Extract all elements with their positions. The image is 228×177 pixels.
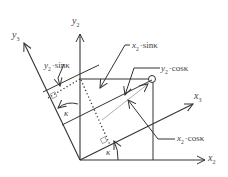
rotated-edge-top <box>43 74 80 92</box>
x3-axis <box>80 104 193 160</box>
annotation-x2-sin: x2·sinκ <box>131 40 158 52</box>
rotation-diagram: y2 y3 x3 x2 κ κ y2·sinκ x2·sinκ y2·cosκ … <box>0 0 228 177</box>
label-y3: y3 <box>11 29 19 42</box>
annotation-x2-cos: x2·cosκ <box>176 133 205 145</box>
annotation-y2-sin: y2·sinκ <box>43 60 70 72</box>
rotated-edge-mid <box>62 80 152 125</box>
angle-arc-bottom <box>114 141 118 160</box>
leader-x2-sin <box>100 45 130 88</box>
label-x3: x3 <box>193 90 201 103</box>
label-x2: x2 <box>207 152 215 165</box>
label-y2: y2 <box>71 15 79 28</box>
rotated-edge-y <box>80 65 99 74</box>
right-angle-box-2 <box>100 137 107 144</box>
kappa-label-top: κ <box>64 108 69 118</box>
kappa-label-bottom: κ <box>106 147 111 157</box>
annotation-y2-cos: y2·cosκ <box>160 63 189 75</box>
dotted-proj-2 <box>81 80 110 145</box>
right-angle-box-1 <box>50 92 57 99</box>
